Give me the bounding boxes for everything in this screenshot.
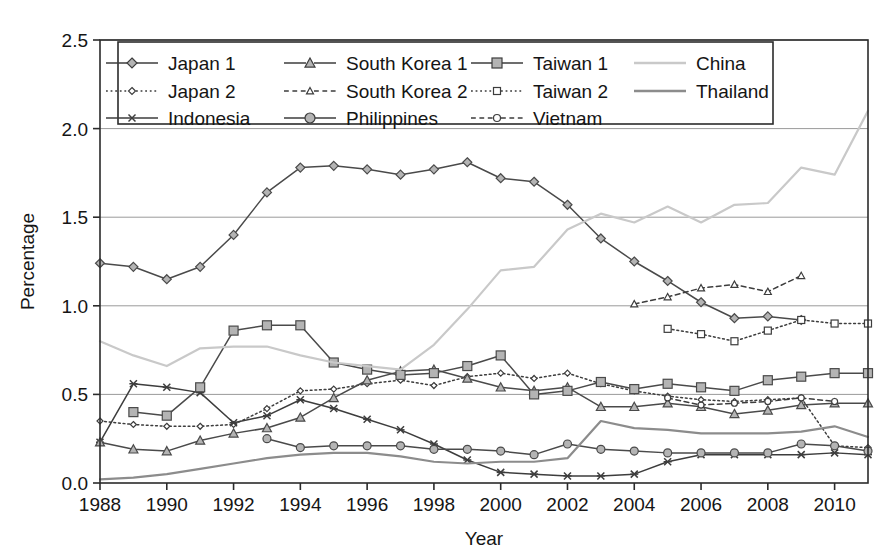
legend-marker-taiwan-1 bbox=[492, 58, 502, 68]
datapoint-indonesia-2005 bbox=[664, 458, 672, 465]
datapoint-japan-2-2002 bbox=[564, 370, 570, 376]
ytick-label-2.5: 2.5 bbox=[62, 30, 88, 51]
datapoint-japan-1-1990 bbox=[162, 275, 171, 284]
datapoint-taiwan-1-1998 bbox=[429, 369, 438, 378]
datapoint-japan-2-1990 bbox=[164, 423, 170, 429]
datapoint-indonesia-2004 bbox=[630, 471, 638, 478]
datapoint-indonesia-1993 bbox=[263, 412, 271, 419]
xtick-label-2008: 2008 bbox=[747, 494, 789, 515]
series-south-korea-2 bbox=[631, 272, 805, 307]
xtick-label-1996: 1996 bbox=[346, 494, 388, 515]
datapoint-philippines-2009 bbox=[797, 440, 805, 448]
datapoint-taiwan-1-1990 bbox=[162, 411, 171, 420]
datapoint-philippines-2005 bbox=[664, 449, 672, 457]
datapoint-japan-1-1989 bbox=[129, 262, 138, 271]
ytick-label-0.0: 0.0 bbox=[62, 473, 88, 494]
xtick-label-1990: 1990 bbox=[146, 494, 188, 515]
datapoint-taiwan-1-2004 bbox=[630, 385, 639, 394]
legend-label-japan-1: Japan 1 bbox=[168, 53, 236, 74]
chart-root: 0.00.51.01.52.02.51988199019921994199619… bbox=[0, 0, 896, 555]
datapoint-taiwan-1-1992 bbox=[229, 326, 238, 335]
series-lines bbox=[96, 111, 873, 480]
datapoint-japan-1-2000 bbox=[496, 174, 505, 183]
datapoint-japan-2-1995 bbox=[331, 386, 337, 392]
datapoint-taiwan-1-2009 bbox=[797, 372, 806, 381]
line-chart: 0.00.51.01.52.02.51988199019921994199619… bbox=[0, 0, 896, 555]
xtick-label-2004: 2004 bbox=[613, 494, 656, 515]
datapoint-philippines-2004 bbox=[630, 447, 638, 455]
legend-label-taiwan-2: Taiwan 2 bbox=[533, 81, 608, 102]
xtick-label-2002: 2002 bbox=[546, 494, 588, 515]
line-japan-1 bbox=[100, 162, 801, 320]
line-south-korea-1 bbox=[100, 370, 868, 452]
datapoint-taiwan-1-2002 bbox=[563, 386, 572, 395]
legend-label-vietnam: Vietnam bbox=[533, 108, 602, 129]
datapoint-taiwan-1-1993 bbox=[262, 321, 271, 330]
ytick-label-1.0: 1.0 bbox=[62, 296, 88, 317]
legend-label-south-korea-1: South Korea 1 bbox=[346, 53, 467, 74]
datapoint-taiwan-1-1997 bbox=[396, 370, 405, 379]
datapoint-indonesia-2002 bbox=[563, 472, 571, 479]
datapoint-japan-1-2004 bbox=[630, 257, 639, 266]
datapoint-vietnam-2006 bbox=[698, 402, 704, 408]
series-south-korea-1 bbox=[96, 365, 873, 455]
datapoint-taiwan-2-2007 bbox=[731, 338, 738, 345]
legend-label-philippines: Philippines bbox=[346, 108, 438, 129]
datapoint-taiwan-1-1989 bbox=[129, 408, 138, 417]
datapoint-indonesia-1990 bbox=[163, 384, 171, 391]
datapoint-japan-2-1993 bbox=[264, 406, 270, 412]
datapoint-philippines-2006 bbox=[697, 449, 705, 457]
datapoint-taiwan-1-2001 bbox=[530, 390, 539, 399]
datapoint-indonesia-1996 bbox=[363, 416, 371, 423]
datapoint-taiwan-1-1991 bbox=[196, 383, 205, 392]
datapoint-vietnam-2009 bbox=[798, 395, 804, 401]
datapoint-philippines-1993 bbox=[263, 435, 271, 443]
datapoint-indonesia-2010 bbox=[831, 449, 839, 456]
datapoint-taiwan-1-2005 bbox=[663, 379, 672, 388]
xtick-label-1988: 1988 bbox=[79, 494, 121, 515]
datapoint-south-korea-2-2009 bbox=[798, 272, 805, 278]
datapoint-philippines-1997 bbox=[397, 442, 405, 450]
xtick-label-1994: 1994 bbox=[279, 494, 322, 515]
legend-marker-taiwan-2 bbox=[494, 88, 501, 95]
datapoint-philippines-2002 bbox=[563, 440, 571, 448]
datapoint-taiwan-1-2007 bbox=[730, 386, 739, 395]
datapoint-japan-2-1991 bbox=[197, 423, 203, 429]
datapoint-philippines-1996 bbox=[363, 442, 371, 450]
ytick-label-1.5: 1.5 bbox=[62, 207, 88, 228]
datapoint-taiwan-1-2003 bbox=[596, 377, 605, 386]
datapoint-japan-1-1997 bbox=[396, 170, 405, 179]
datapoint-vietnam-2007 bbox=[731, 400, 737, 406]
line-china bbox=[100, 111, 868, 370]
datapoint-taiwan-1-2006 bbox=[697, 383, 706, 392]
legend-label-indonesia: Indonesia bbox=[168, 108, 251, 129]
datapoint-indonesia-2003 bbox=[597, 472, 605, 479]
datapoint-taiwan-2-2009 bbox=[798, 316, 805, 323]
legend-label-south-korea-2: South Korea 2 bbox=[346, 81, 467, 102]
datapoint-philippines-1999 bbox=[463, 445, 471, 453]
datapoint-south-korea-2-2007 bbox=[731, 281, 738, 287]
datapoint-japan-2-1989 bbox=[130, 422, 136, 428]
ytick-label-0.5: 0.5 bbox=[62, 384, 88, 405]
xtick-label-1992: 1992 bbox=[212, 494, 254, 515]
datapoint-japan-1-2005 bbox=[663, 276, 672, 285]
datapoint-philippines-2010 bbox=[831, 442, 839, 450]
datapoint-japan-1-2007 bbox=[730, 314, 739, 323]
datapoint-indonesia-2000 bbox=[497, 469, 505, 476]
datapoint-japan-2-2000 bbox=[498, 370, 504, 376]
series-japan-1 bbox=[96, 158, 806, 325]
datapoint-japan-2-1998 bbox=[431, 383, 437, 389]
datapoint-taiwan-1-1999 bbox=[463, 362, 472, 371]
xtick-label-2010: 2010 bbox=[813, 494, 855, 515]
datapoint-taiwan-1-1994 bbox=[296, 321, 305, 330]
legend: Japan 1South Korea 1Taiwan 1ChinaJapan 2… bbox=[106, 42, 773, 129]
datapoint-philippines-2001 bbox=[530, 451, 538, 459]
datapoint-japan-1-1999 bbox=[463, 158, 472, 167]
series-indonesia bbox=[96, 380, 872, 479]
legend-marker-vietnam bbox=[494, 115, 501, 122]
series-china bbox=[100, 111, 868, 370]
datapoint-indonesia-1989 bbox=[129, 380, 137, 387]
line-south-korea-2 bbox=[634, 276, 801, 304]
datapoint-taiwan-2-2008 bbox=[764, 327, 771, 334]
datapoint-japan-1-1996 bbox=[363, 165, 372, 174]
